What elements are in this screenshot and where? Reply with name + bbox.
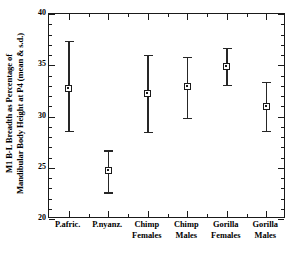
x-axis-tick-major: [266, 14, 267, 20]
y-axis-title-line-2: Mandibular Body Height at P4 (mean & s.d…: [15, 32, 26, 193]
plot-area: [48, 13, 285, 218]
y-axis-tick-major: [49, 117, 55, 118]
y-axis-tick-minor: [49, 86, 52, 87]
y-axis-tick-label: 35: [32, 60, 46, 68]
y-axis-tick-minor: [281, 76, 284, 77]
y-axis-tick-minor: [281, 24, 284, 25]
y-axis-tick-minor: [281, 158, 284, 159]
data-point-marker: [65, 85, 72, 92]
x-axis-tick-major: [69, 211, 70, 217]
x-axis-tick-major: [227, 211, 228, 217]
y-axis-tick-major: [49, 65, 55, 66]
x-axis-tick-minor: [168, 14, 169, 17]
x-axis-tick-minor: [207, 14, 208, 17]
x-axis-category-label: ChimpFemales: [132, 220, 161, 241]
y-axis-tick-minor: [281, 35, 284, 36]
y-axis-tick-major: [49, 14, 55, 15]
y-axis-tick-minor: [281, 86, 284, 87]
y-axis-tick-label: 20: [32, 214, 46, 222]
chart-figure: M1 B-L Breadth as Percentage of Mandibul…: [0, 0, 297, 254]
y-axis-tick-minor: [281, 147, 284, 148]
y-axis-tick-minor: [281, 55, 284, 56]
y-axis-tick-minor: [49, 209, 52, 210]
y-axis-tick-major: [278, 65, 284, 66]
x-axis-tick-major: [108, 211, 109, 217]
errorbar-cap-lower: [65, 131, 74, 132]
errorbar-cap-upper: [262, 82, 271, 83]
x-axis-tick-major: [187, 211, 188, 217]
x-axis-tick-labels: P.afric.P.nyanz.ChimpFemalesChimpMalesGo…: [48, 220, 285, 254]
x-axis-category-label: GorillaMales: [252, 220, 278, 241]
x-axis-tick-major: [227, 14, 228, 20]
x-axis-category-label: ChimpMales: [174, 220, 199, 241]
x-axis-category-label-line-1: Gorilla: [213, 220, 239, 229]
y-axis-tick-minor: [281, 188, 284, 189]
x-axis-tick-major: [148, 14, 149, 20]
y-axis-tick-minor: [49, 188, 52, 189]
x-axis-tick-major: [108, 14, 109, 20]
errorbar-cap-lower: [183, 118, 192, 119]
x-axis-tick-minor: [89, 214, 90, 217]
x-axis-category-label-line-1: P.nyanz.: [92, 220, 122, 229]
x-axis-tick-major: [266, 211, 267, 217]
y-axis-tick-minor: [281, 137, 284, 138]
errorbar-cap-upper: [144, 55, 153, 56]
y-axis-tick-major: [49, 168, 55, 169]
y-axis-tick-major: [278, 117, 284, 118]
y-axis-tick-minor: [49, 45, 52, 46]
x-axis-category-label-line-1: P.afric.: [55, 220, 80, 229]
x-axis-category-label-line-2: Males: [174, 231, 199, 242]
y-axis-tick-minor: [49, 178, 52, 179]
x-axis-category-label: P.afric.: [55, 220, 80, 231]
x-axis-category-label-line-2: Males: [252, 231, 278, 242]
y-axis-title: M1 B-L Breadth as Percentage of Mandibul…: [0, 0, 30, 226]
data-point-marker: [144, 90, 151, 97]
y-axis-tick-minor: [49, 127, 52, 128]
y-axis-tick-minor: [49, 76, 52, 77]
data-point-marker: [184, 83, 191, 90]
data-point-marker: [105, 167, 112, 174]
errorbar-cap-lower: [262, 131, 271, 132]
errorbar-cap-lower: [104, 192, 113, 193]
data-point-marker: [223, 63, 230, 70]
data-point-marker: [263, 103, 270, 110]
x-axis-tick-minor: [89, 14, 90, 17]
x-axis-category-label-line-1: Gorilla: [252, 220, 278, 229]
y-axis-tick-minor: [49, 24, 52, 25]
errorbar-cap-lower: [223, 85, 232, 86]
x-axis-category-label-line-2: Females: [211, 231, 240, 242]
y-axis-tick-minor: [281, 178, 284, 179]
x-axis-category-label-line-1: Chimp: [174, 220, 199, 229]
y-axis-tick-minor: [281, 199, 284, 200]
y-axis-tick-minor: [49, 106, 52, 107]
errorbar-cap-upper: [223, 48, 232, 49]
y-axis-tick-minor: [49, 199, 52, 200]
y-axis-tick-minor: [49, 96, 52, 97]
x-axis-tick-minor: [128, 214, 129, 217]
y-axis-tick-label: 40: [32, 9, 46, 17]
x-axis-category-label-line-1: Chimp: [134, 220, 159, 229]
errorbar-cap-upper: [65, 41, 74, 42]
x-axis-category-label: GorillaFemales: [211, 220, 240, 241]
x-axis-tick-minor: [128, 14, 129, 17]
y-axis-tick-minor: [281, 106, 284, 107]
y-axis-tick-minor: [49, 158, 52, 159]
y-axis-tick-label: 25: [32, 163, 46, 171]
y-axis-tick-major: [278, 14, 284, 15]
errorbar-cap-upper: [104, 150, 113, 151]
y-axis-tick-minor: [49, 137, 52, 138]
y-axis-tick-minor: [281, 127, 284, 128]
x-axis-category-label-line-2: Females: [132, 231, 161, 242]
x-axis-tick-minor: [247, 14, 248, 17]
x-axis-tick-major: [69, 14, 70, 20]
y-axis-tick-minor: [49, 55, 52, 56]
y-axis-tick-minor: [281, 45, 284, 46]
y-axis-tick-major: [278, 168, 284, 169]
errorbar-cap-lower: [144, 132, 153, 133]
y-axis-title-line-1: M1 B-L Breadth as Percentage of: [5, 32, 16, 193]
y-axis-tick-label: 30: [32, 112, 46, 120]
x-axis-tick-minor: [168, 214, 169, 217]
y-axis-tick-minor: [49, 35, 52, 36]
y-axis-tick-minor: [49, 147, 52, 148]
errorbar-cap-upper: [183, 57, 192, 58]
